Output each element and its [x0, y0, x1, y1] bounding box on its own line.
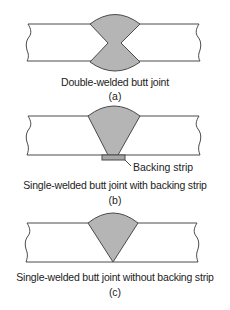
figure-c-drawing: [25, 213, 199, 262]
weld-bead-double-v: [90, 15, 140, 72]
right-plate: [139, 24, 201, 61]
weld-joint-diagram: [0, 0, 230, 310]
figure-a-drawing: [26, 15, 201, 72]
figure-b-caption: Single-welded butt joint with backing st…: [0, 179, 230, 191]
figure-a-caption: Double-welded butt joint: [0, 76, 230, 88]
left-plate: [26, 24, 91, 61]
figure-b-label: (b): [0, 194, 230, 206]
figure-b-drawing: [26, 106, 201, 166]
backing-strip-leader-line: [125, 160, 131, 166]
weld-bead-single-v: [88, 106, 140, 155]
figure-a-label: (a): [0, 90, 230, 102]
backing-strip: [102, 155, 125, 160]
figure-c-label: (c): [0, 286, 230, 298]
figure-c-caption: Single-welded butt joint without backing…: [0, 271, 230, 283]
backing-strip-callout: Backing strip: [133, 161, 193, 173]
weld-bead-single-v: [88, 213, 138, 262]
